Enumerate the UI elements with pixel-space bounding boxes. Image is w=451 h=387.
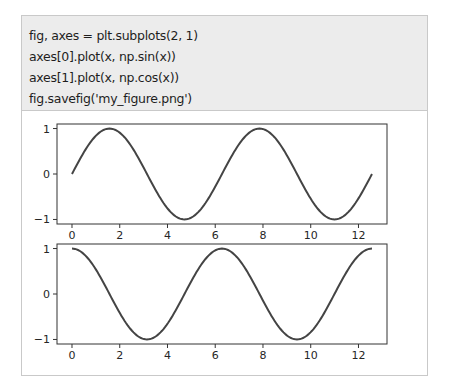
y-tick-label: −1	[34, 333, 50, 346]
x-tick-label: 8	[259, 229, 266, 242]
y-tick-label: 1	[43, 123, 50, 136]
x-tick-label: 4	[164, 349, 171, 362]
x-tick-label: 12	[351, 349, 365, 362]
x-tick-label: 0	[68, 229, 75, 242]
x-tick-label: 6	[212, 349, 219, 362]
x-tick-label: 10	[304, 349, 318, 362]
y-tick-label: −1	[34, 213, 50, 226]
y-tick-label: 1	[43, 243, 50, 256]
x-tick-label: 8	[259, 349, 266, 362]
x-tick-label: 2	[116, 349, 123, 362]
x-tick-label: 4	[164, 229, 171, 242]
y-tick-label: 0	[43, 168, 50, 181]
x-tick-label: 6	[212, 229, 219, 242]
x-tick-label: 2	[116, 229, 123, 242]
x-tick-label: 0	[68, 349, 75, 362]
figure-output: 02468101210−102468101210−1	[0, 0, 451, 387]
x-tick-label: 10	[304, 229, 318, 242]
y-tick-label: 0	[43, 288, 50, 301]
x-tick-label: 12	[351, 229, 365, 242]
axes-frame-1	[57, 244, 387, 344]
